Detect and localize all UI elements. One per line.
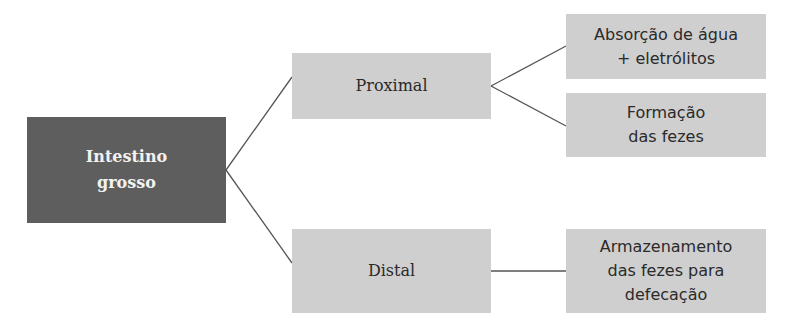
node-proximal: Proximal [292, 53, 491, 119]
leaf-water-electrolyte-absorption: Absorção de água + eletrólitos [566, 14, 766, 79]
connector-proximal-formation [491, 86, 566, 126]
leaf-feces-formation: Formação das fezes [566, 93, 766, 157]
leaf-absorption-label: Absorção de água + eletrólitos [594, 23, 738, 71]
connector-root-proximal [226, 77, 292, 170]
leaf-storage-label: Armazenamento das fezes para defecação [600, 235, 732, 307]
node-distal: Distal [292, 229, 491, 313]
root-node-large-intestine: Intestino grosso [27, 117, 226, 223]
leaf-formation-label: Formação das fezes [627, 101, 706, 149]
connector-root-distal [226, 170, 292, 263]
root-node-label: Intestino grosso [86, 144, 167, 196]
connector-proximal-absorption [491, 46, 566, 86]
node-distal-label: Distal [368, 258, 415, 284]
leaf-feces-storage: Armazenamento das fezes para defecação [566, 229, 766, 313]
node-proximal-label: Proximal [355, 73, 427, 99]
